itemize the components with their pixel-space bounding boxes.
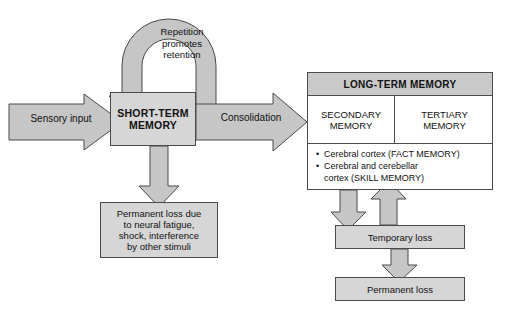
secondary-memory-line2: MEMORY	[321, 120, 381, 131]
stm-line2: MEMORY	[117, 119, 188, 131]
permanent-loss-left-box: Permanent loss due to neural fatigue, sh…	[100, 202, 218, 258]
long-term-memory-bullet-list: • Cerebral cortex (FACT MEMORY) • Cerebr…	[308, 144, 492, 191]
bullet-skill-line1: Cerebral and cerebellar	[324, 161, 418, 171]
bullet-text-skill-memory: Cerebral and cerebellar cortex (SKILL ME…	[324, 161, 486, 185]
permanent-loss-right-box: Permanent loss	[335, 277, 465, 301]
secondary-memory-cell: SECONDARY MEMORY	[308, 96, 394, 144]
sensory-input-label: Sensory input	[18, 113, 104, 125]
permanent-loss-left-label: Permanent loss due to neural fatigue, sh…	[117, 208, 202, 253]
short-term-memory-label: SHORT-TERM MEMORY	[117, 107, 188, 132]
bullet-skill-line2: cortex (SKILL MEMORY)	[324, 173, 424, 183]
repetition-label-line1: Repetition	[146, 26, 218, 38]
secondary-memory-label: SECONDARY MEMORY	[321, 109, 381, 131]
temporary-loss-box: Temporary loss	[335, 225, 465, 249]
permanent-loss-left-line3: shock, interference	[117, 230, 202, 241]
diagram-canvas: Sensory input Consolidation Repetition p…	[0, 0, 508, 311]
stm-line1: SHORT-TERM	[117, 107, 188, 119]
repetition-label: Repetition promotes retention	[146, 26, 218, 61]
tertiary-memory-cell: TERTIARY MEMORY	[395, 96, 494, 144]
tertiary-memory-label: TERTIARY MEMORY	[421, 109, 468, 131]
temporary-loss-label: Temporary loss	[368, 232, 432, 243]
bullet-dot-icon: •	[316, 149, 324, 161]
list-item: • Cerebral and cerebellar cortex (SKILL …	[316, 161, 486, 185]
permanent-loss-left-line4: by other stimuli	[117, 241, 202, 252]
repetition-label-line2: promotes	[146, 38, 218, 50]
long-term-memory-box: LONG-TERM MEMORY SECONDARY MEMORY TERTIA…	[307, 72, 493, 190]
long-term-memory-header: LONG-TERM MEMORY	[308, 73, 492, 96]
repetition-label-line3: retention	[146, 49, 218, 61]
ltm-to-temporary-loss-arrow	[331, 190, 366, 230]
stm-to-permanent-loss-arrow	[139, 146, 179, 207]
permanent-loss-left-line1: Permanent loss due	[117, 208, 202, 219]
bullet-dot-icon: •	[316, 161, 324, 173]
list-item: • Cerebral cortex (FACT MEMORY)	[316, 149, 486, 161]
tertiary-memory-line2: MEMORY	[421, 120, 468, 131]
permanent-loss-left-line2: to neural fatigue,	[117, 219, 202, 230]
permanent-loss-right-label: Permanent loss	[367, 284, 433, 295]
short-term-memory-box: SHORT-TERM MEMORY	[110, 92, 196, 146]
bullet-text-fact-memory: Cerebral cortex (FACT MEMORY)	[324, 149, 486, 161]
secondary-memory-line1: SECONDARY	[321, 109, 381, 120]
consolidation-label: Consolidation	[205, 112, 297, 124]
tertiary-memory-line1: TERTIARY	[421, 109, 468, 120]
